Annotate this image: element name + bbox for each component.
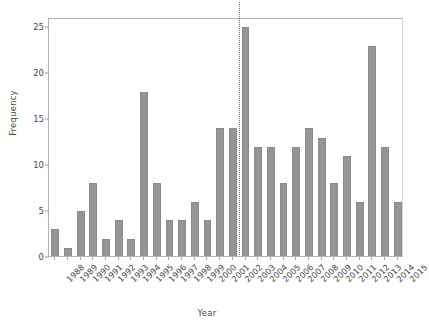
bar-1998	[178, 220, 186, 257]
bar-1994	[127, 239, 135, 257]
bar-2008	[305, 128, 313, 257]
x-axis-tick-mark	[308, 257, 309, 260]
x-axis-tick-mark	[143, 257, 144, 260]
y-axis-tick-label: 25	[22, 23, 44, 32]
y-axis-tick-mark	[45, 257, 49, 258]
bar-2000	[204, 220, 212, 257]
x-axis-tick-mark	[92, 257, 93, 260]
x-axis-tick-mark	[54, 257, 55, 260]
y-axis-tick-mark	[45, 119, 49, 120]
bar-2013	[368, 46, 376, 257]
bar-2015	[394, 202, 402, 257]
x-axis-tick-mark	[245, 257, 246, 260]
bar-2004	[254, 147, 262, 257]
x-axis-tick-mark	[156, 257, 157, 260]
bar-2011	[343, 156, 351, 257]
x-axis-tick-mark	[105, 257, 106, 260]
bar-2014	[381, 147, 389, 257]
bar-2002	[229, 128, 237, 257]
bar-1999	[191, 202, 199, 257]
bar-2009	[318, 138, 326, 258]
bar-2001	[216, 128, 224, 257]
bars-container	[49, 19, 402, 257]
bar-1995	[140, 92, 148, 257]
plot-area	[48, 18, 403, 257]
bar-1997	[166, 220, 174, 257]
x-axis-tick-mark	[371, 257, 372, 260]
y-axis-tick-mark	[45, 27, 49, 28]
y-axis-tick-labels: 0510152025	[20, 0, 44, 329]
y-axis-tick-label: 10	[22, 161, 44, 170]
x-axis-tick-mark	[346, 257, 347, 260]
x-axis-tick-mark	[257, 257, 258, 260]
x-axis-line	[48, 256, 403, 257]
x-axis-tick-mark	[333, 257, 334, 260]
x-axis-tick-mark	[270, 257, 271, 260]
y-axis-tick-label: 20	[22, 69, 44, 78]
x-axis-tick-mark	[206, 257, 207, 260]
y-axis-tick-label: 5	[22, 207, 44, 216]
bar-2012	[356, 202, 364, 257]
x-axis-tick-mark	[295, 257, 296, 260]
x-axis-tick-mark	[283, 257, 284, 260]
x-axis-tick-mark	[359, 257, 360, 260]
bar-2006	[280, 183, 288, 257]
bar-1992	[102, 239, 110, 257]
bar-1993	[115, 220, 123, 257]
y-axis-tick-mark	[45, 73, 49, 74]
bar-1996	[153, 183, 161, 257]
y-axis-tick-label: 15	[22, 115, 44, 124]
x-axis-tick-mark	[219, 257, 220, 260]
bar-2007	[292, 147, 300, 257]
y-axis-tick-label: 0	[22, 253, 44, 262]
x-axis-tick-mark	[384, 257, 385, 260]
bar-1988	[51, 229, 59, 257]
bar-1990	[77, 211, 85, 257]
x-axis-tick-mark	[321, 257, 322, 260]
x-axis-tick-mark	[130, 257, 131, 260]
y-axis-tick-mark	[45, 165, 49, 166]
x-axis-title: Year	[0, 308, 414, 318]
bar-2005	[267, 147, 275, 257]
x-axis-tick-mark	[194, 257, 195, 260]
x-axis-tick-mark	[118, 257, 119, 260]
x-axis-tick-mark	[67, 257, 68, 260]
x-axis-tick-mark	[80, 257, 81, 260]
x-axis-tick-mark	[397, 257, 398, 260]
bar-2010	[330, 183, 338, 257]
x-axis-tick-mark	[168, 257, 169, 260]
x-axis-tick-mark	[232, 257, 233, 260]
y-axis-title: Frequency	[8, 68, 18, 158]
y-axis-tick-mark	[45, 211, 49, 212]
x-axis-tick-mark	[181, 257, 182, 260]
bar-2003	[242, 27, 250, 257]
year-divider	[239, 2, 240, 257]
bar-1991	[89, 183, 97, 257]
